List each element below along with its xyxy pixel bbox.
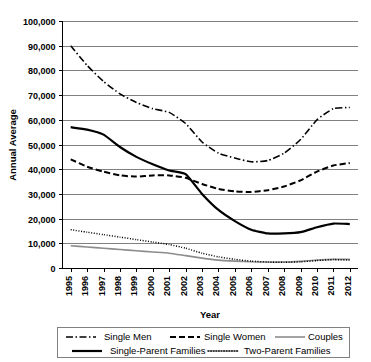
series-line-single-women (71, 159, 350, 192)
y-tick-label: 40,000 (28, 165, 56, 175)
legend: Single MenSingle WomenCouplesSingle-Pare… (58, 328, 350, 358)
x-tick-label: 2001 (162, 276, 172, 296)
series-line-two-parent-families (71, 230, 350, 263)
legend-label-two-parent-families: Two-Parent Families (244, 345, 331, 356)
y-tick-label: 80,000 (28, 66, 56, 76)
legend-label-single-parent-families: Single-Parent Families (110, 345, 206, 356)
y-tick-label: 20,000 (28, 215, 56, 225)
x-tick-label: 2004 (211, 276, 221, 296)
series-line-single-men (71, 46, 350, 162)
data-series-group (71, 46, 350, 263)
legend-label-single-women: Single Women (204, 331, 266, 342)
x-axis-group: 1995199619971998199920002001200220032004… (63, 268, 359, 320)
y-tick-label: 60,000 (28, 116, 56, 126)
chart-container: 010,00020,00030,00040,00050,00060,00070,… (0, 0, 371, 362)
series-line-couples (71, 246, 350, 262)
x-tick-label: 1996 (80, 276, 90, 296)
x-tick-label: 1995 (64, 276, 74, 296)
series-line-single-parent-families (71, 127, 350, 233)
y-tick-label: 70,000 (28, 91, 56, 101)
x-tick-label: 2005 (228, 276, 238, 296)
y-tick-label: 100,000 (23, 17, 56, 27)
y-tick-labels: 010,00020,00030,00040,00050,00060,00070,… (23, 17, 63, 274)
x-tick-label: 2002 (179, 276, 189, 296)
legend-label-couples: Couples (308, 331, 343, 342)
x-tick-label: 1999 (129, 276, 139, 296)
x-tick-label: 2012 (343, 276, 353, 296)
x-tick-label: 2000 (146, 276, 156, 296)
y-tick-label: 0 (50, 264, 55, 274)
y-tick-label: 30,000 (28, 190, 56, 200)
y-axis-group: 010,00020,00030,00040,00050,00060,00070,… (7, 17, 63, 274)
x-axis-title: Year (200, 309, 220, 320)
x-tick-label: 2010 (310, 276, 320, 296)
x-tick-label: 2006 (244, 276, 254, 296)
y-tick-label: 90,000 (28, 42, 56, 52)
x-tick-label: 2003 (195, 276, 205, 296)
x-tick-label: 1998 (113, 276, 123, 296)
y-axis-title: Annual Average (7, 109, 18, 181)
x-tick-label: 2007 (261, 276, 271, 296)
x-tick-label: 1997 (97, 276, 107, 296)
y-tick-label: 10,000 (28, 239, 56, 249)
y-tick-label: 50,000 (28, 141, 56, 151)
x-tick-label: 2011 (326, 276, 336, 296)
x-tick-label: 2009 (294, 276, 304, 296)
gridlines-group (63, 22, 359, 244)
x-tick-label: 2008 (277, 276, 287, 296)
x-tick-labels: 1995199619971998199920002001200220032004… (64, 268, 353, 296)
line-chart: 010,00020,00030,00040,00050,00060,00070,… (0, 0, 371, 362)
legend-label-single-men: Single Men (104, 331, 152, 342)
